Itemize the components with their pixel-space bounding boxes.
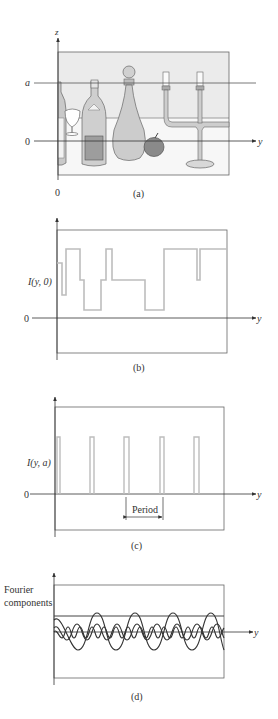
panel-c: Period I(y, a) 0 y (c) — [24, 397, 262, 552]
third-harmonic-component — [54, 627, 224, 638]
b-origin: 0 — [24, 313, 29, 324]
a-label: a — [25, 77, 30, 88]
b-xlabel: y — [256, 313, 262, 324]
d-xlabel: y — [253, 627, 259, 638]
pulse-train — [57, 437, 199, 494]
panel-a: z a 0 y 0 (a) — [25, 27, 263, 200]
caption-b: (b) — [133, 362, 145, 374]
origin-label: 0 — [55, 187, 60, 198]
fundamental-component — [54, 613, 224, 650]
c-xlabel: y — [256, 489, 262, 500]
d-ylabel-line2: components — [4, 597, 52, 608]
y-axis-label: y — [257, 136, 263, 147]
caption-d: (d) — [131, 691, 143, 703]
zero-label: 0 — [25, 136, 30, 147]
caption-a: (a) — [133, 188, 144, 200]
figure: z a 0 y 0 (a) I(y, 0) 0 y (b) Period I(y… — [0, 0, 278, 719]
b-ylabel: I(y, 0) — [27, 276, 53, 288]
z-axis-label: z — [54, 27, 59, 37]
d-ylabel-line1: Fourier — [4, 584, 34, 595]
caption-c: (c) — [131, 540, 142, 552]
panel-d-frame — [54, 585, 224, 678]
panel-d: Fourier components y (d) — [4, 573, 259, 703]
c-ylabel: I(y, a) — [26, 457, 52, 469]
period-label: Period — [132, 504, 158, 515]
c-origin: 0 — [24, 489, 29, 500]
intensity-profile-z0 — [57, 249, 227, 310]
panel-b: I(y, 0) 0 y (b) — [24, 218, 262, 374]
